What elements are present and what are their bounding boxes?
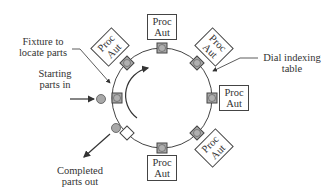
starting-part-icon — [97, 95, 106, 104]
rotation-arrow — [126, 68, 148, 118]
dial-table-label: Dial indexing table — [258, 52, 326, 74]
completed-arrow — [84, 134, 110, 157]
starting-parts-label: Starting parts in — [30, 68, 80, 90]
station-right: Proc Aut — [219, 85, 249, 111]
completed-part-icon — [112, 124, 121, 133]
fixture-label: Fixture to locate parts — [12, 36, 74, 58]
station-bottom: Proc Aut — [147, 155, 177, 181]
station-top: Proc Aut — [147, 14, 177, 40]
completed-parts-label: Completed parts out — [50, 165, 110, 187]
